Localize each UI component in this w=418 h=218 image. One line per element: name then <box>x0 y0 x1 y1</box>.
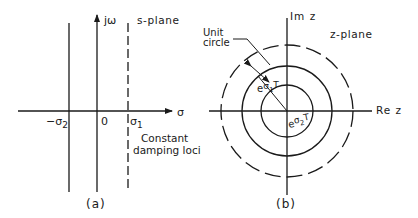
sigma1-label: σ1 <box>130 115 143 130</box>
caption-a: (a) <box>86 197 106 211</box>
z-plane-panel: Im z z-plane Re z Unit circle eσ1T eσ2T … <box>203 10 402 211</box>
caption-b: (b) <box>276 197 296 211</box>
s-plane-panel: jω s-plane σ −σ2 0 σ1 Constant damping l… <box>18 14 201 211</box>
neg-sigma2-label: −σ2 <box>46 115 68 130</box>
unit-circle-leader <box>233 39 270 65</box>
im-z-label: Im z <box>290 10 316 22</box>
origin-label: 0 <box>101 115 108 128</box>
loci-label-line1: Constant <box>141 132 188 144</box>
diagram-canvas: jω s-plane σ −σ2 0 σ1 Constant damping l… <box>0 0 418 218</box>
radius1-label: eσ1T <box>257 80 279 94</box>
re-z-label: Re z <box>376 104 402 116</box>
z-plane-label: z-plane <box>330 28 373 40</box>
unit-circle-label-line2: circle <box>203 37 230 48</box>
gap-arrow <box>251 66 269 82</box>
sigma-axis-label: σ <box>177 106 184 119</box>
s-plane-label: s-plane <box>137 14 180 26</box>
loci-label-line2: damping loci <box>133 144 201 156</box>
jomega-label: jω <box>103 14 116 27</box>
